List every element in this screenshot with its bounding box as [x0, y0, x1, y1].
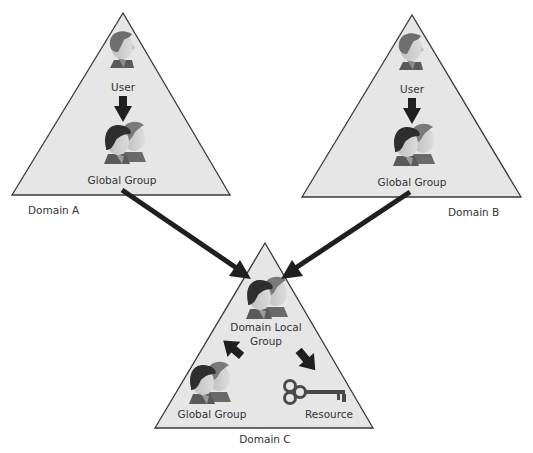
user-label: User	[400, 83, 425, 95]
global-group-label: Global Group	[178, 408, 247, 420]
domain-a-label: Domain A	[28, 204, 80, 216]
domain-b: User Global Group Domain B	[302, 15, 521, 218]
domain-local-group-label-line1: Domain Local	[230, 321, 301, 333]
domain-b-label: Domain B	[448, 206, 499, 218]
domain-c: Domain Local Group Global Group Resource…	[155, 243, 373, 445]
domain-c-label: Domain C	[239, 433, 290, 445]
user-label: User	[111, 81, 136, 93]
arrow-a-to-c	[122, 190, 251, 279]
global-group-label: Global Group	[88, 174, 157, 186]
domain-local-group-icon	[246, 277, 288, 319]
resource-label: Resource	[305, 408, 353, 420]
global-group-icon	[104, 122, 146, 164]
global-group-icon	[189, 362, 231, 404]
domain-a: User Global Group Domain A	[12, 13, 230, 216]
group-nesting-diagram: User Global Group Domain A User Global G…	[0, 0, 533, 453]
arrow-b-to-c	[281, 192, 410, 279]
global-group-label: Global Group	[378, 176, 447, 188]
domain-local-group-label-line2: Group	[250, 335, 282, 347]
global-group-icon	[393, 124, 435, 166]
